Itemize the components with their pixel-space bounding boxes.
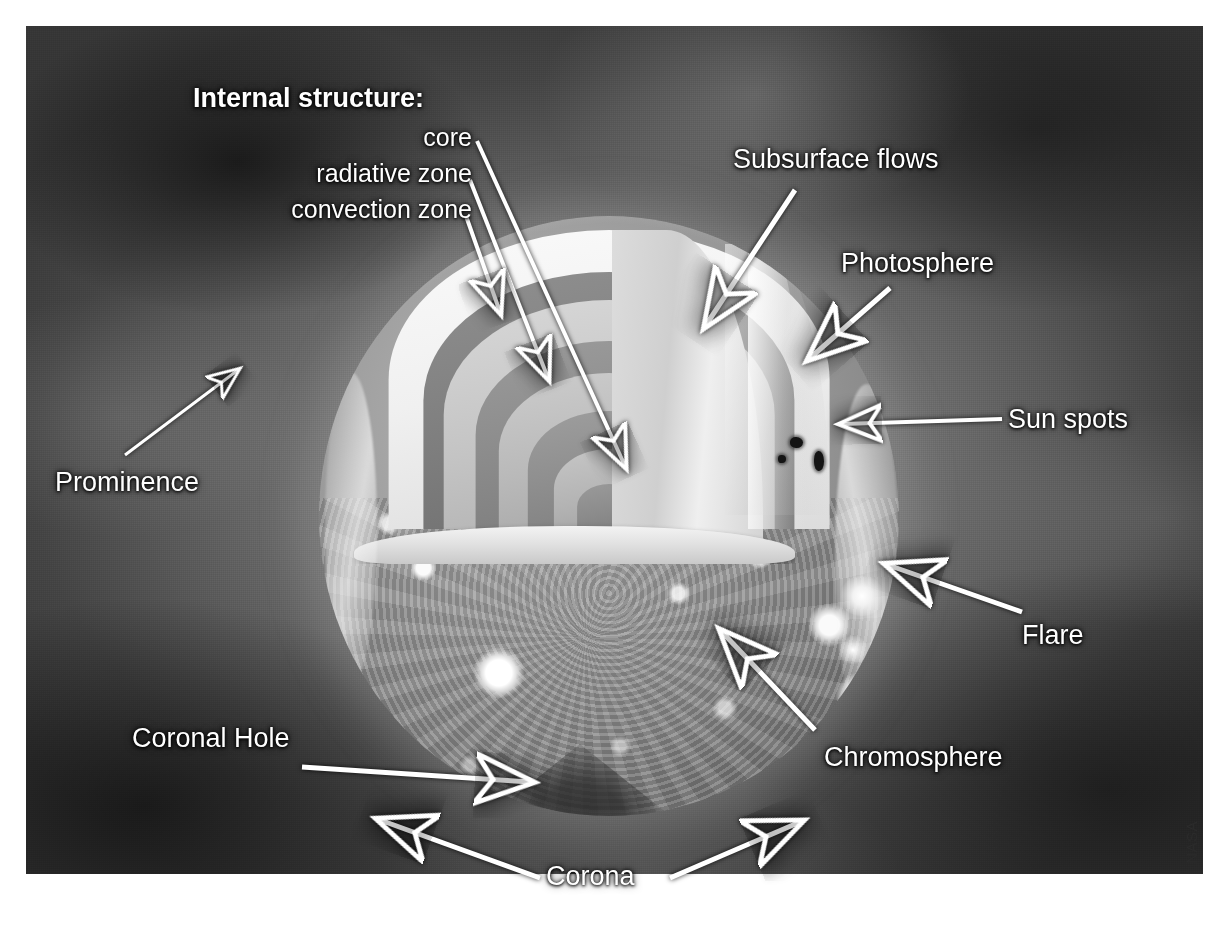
label-flare: Flare	[1022, 620, 1084, 651]
figure-canvas: NASA	[0, 0, 1218, 951]
label-chromosphere: Chromosphere	[824, 742, 1003, 773]
label-core: core	[180, 123, 472, 152]
label-photosphere: Photosphere	[841, 248, 994, 279]
label-sun-spots: Sun spots	[1008, 404, 1128, 435]
label-coronal-hole: Coronal Hole	[132, 723, 290, 754]
arrow-subsurface-flows	[706, 190, 795, 325]
label-convection-zone: convection zone	[180, 195, 472, 224]
arrow-corona-right	[670, 822, 800, 878]
annotation-layer: Internal structure: core radiative zone …	[0, 0, 1218, 951]
label-corona: Corona	[546, 861, 635, 892]
arrow-core	[477, 141, 625, 466]
arrow-corona-left	[380, 820, 540, 878]
arrow-coronal-hole	[302, 767, 530, 782]
label-subsurface-flows: Subsurface flows	[733, 144, 939, 175]
arrow-sun-spots	[842, 419, 1002, 424]
internal-structure-heading: Internal structure:	[193, 83, 424, 114]
arrow-photosphere	[810, 288, 890, 358]
arrow-prominence	[125, 370, 238, 455]
arrow-flare	[888, 565, 1022, 612]
label-radiative-zone: radiative zone	[180, 159, 472, 188]
arrow-chromosphere	[722, 632, 815, 730]
label-prominence: Prominence	[55, 467, 199, 498]
arrow-convection-zone	[466, 216, 500, 312]
